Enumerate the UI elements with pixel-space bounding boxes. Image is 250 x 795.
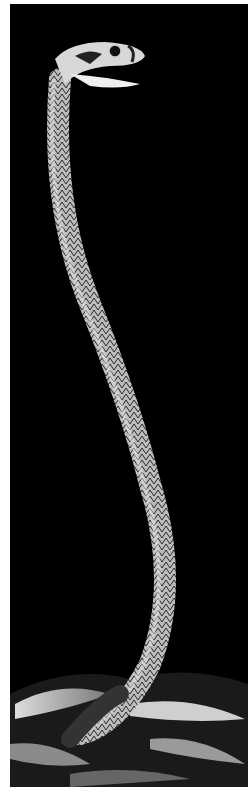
- snake-eye: [109, 45, 121, 57]
- snake-body: [58, 79, 165, 734]
- snake-photo: [10, 4, 248, 787]
- snake-illustration: [10, 4, 248, 787]
